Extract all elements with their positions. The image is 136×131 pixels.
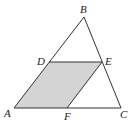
label-d: D — [36, 55, 45, 67]
label-f: F — [63, 110, 71, 122]
label-a: A — [3, 107, 11, 119]
label-b: B — [80, 3, 87, 15]
shaded-parallelogram-adef — [14, 62, 102, 108]
label-e: E — [104, 55, 112, 67]
geometry-diagram: A B C D E F — [0, 0, 136, 131]
label-c: C — [120, 108, 128, 120]
